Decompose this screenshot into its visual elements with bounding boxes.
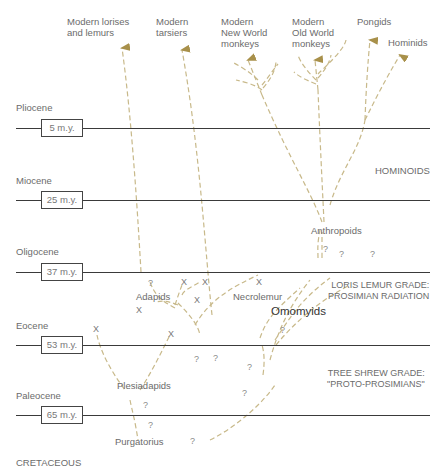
label-lorises-lemurs: Modern lorises and lemurs	[67, 16, 129, 38]
epoch-label-oligocene: Oligocene	[16, 246, 59, 257]
label-old-world-monkeys: Modern Old World monkeys	[292, 16, 334, 49]
epoch-label-miocene: Miocene	[16, 175, 52, 186]
label-anthropoids: Anthropoids	[311, 225, 362, 236]
age-box-eocene: 53 m.y.	[41, 336, 83, 354]
label-purgatorius: Purgatorius	[115, 436, 164, 447]
label-new-world-monkeys: Modern New World monkeys	[221, 16, 267, 49]
age-box-oligocene: 37 m.y.	[41, 263, 83, 281]
primate-evolution-diagram: Pliocene Miocene Oligocene Eocene Paleoc…	[0, 0, 444, 476]
question-marker: ?	[370, 249, 375, 259]
extinct-marker: X	[194, 295, 200, 305]
label-tree-shrew-grade: TREE SHREW GRADE: "PROTO-PROSIMIANS"	[327, 368, 425, 390]
label-necrolemur: Necrolemur	[233, 291, 282, 302]
question-marker: ?	[339, 249, 344, 259]
question-marker: ?	[323, 244, 328, 254]
age-box-miocene: 25 m.y.	[41, 191, 83, 209]
extinct-marker: X	[202, 277, 208, 287]
question-marker: ?	[148, 278, 153, 288]
question-marker: ?	[194, 354, 199, 364]
epoch-label-eocene: Eocene	[16, 320, 48, 331]
label-hominoids: HOMINOIDS	[375, 165, 430, 176]
question-marker: ?	[143, 400, 148, 410]
question-marker: ?	[148, 420, 153, 430]
question-marker: ?	[213, 353, 218, 363]
label-tarsiers: Modern tarsiers	[156, 16, 188, 38]
label-omomyids: Omomyids	[271, 306, 326, 317]
age-box-pliocene: 5 m.y.	[41, 119, 83, 137]
label-hominids: Hominids	[388, 37, 428, 48]
phylogeny-branches	[0, 0, 444, 476]
question-marker: ?	[247, 362, 252, 372]
extinct-marker: X	[256, 277, 262, 287]
extinct-marker: X	[181, 277, 187, 287]
label-plesiadapids: Plesiadapids	[117, 380, 171, 391]
epoch-label-pliocene: Pliocene	[16, 102, 52, 113]
question-marker: ?	[190, 436, 195, 446]
extinct-marker: X	[168, 329, 174, 339]
label-pongids: Pongids	[357, 16, 391, 27]
extinct-marker: X	[136, 305, 142, 315]
label-loris-lemur-grade: LORIS LEMUR GRADE: PROSIMIAN RADIATION	[328, 280, 429, 302]
epoch-label-paleocene: Paleocene	[16, 390, 61, 401]
extinct-marker: X	[93, 324, 99, 334]
question-marker: ?	[242, 388, 247, 398]
question-marker: ?	[280, 325, 285, 335]
age-box-paleocene: 65 m.y.	[41, 406, 83, 424]
epoch-label-cretaceous: CRETACEOUS	[16, 457, 81, 468]
label-adapids: Adapids	[136, 291, 170, 302]
